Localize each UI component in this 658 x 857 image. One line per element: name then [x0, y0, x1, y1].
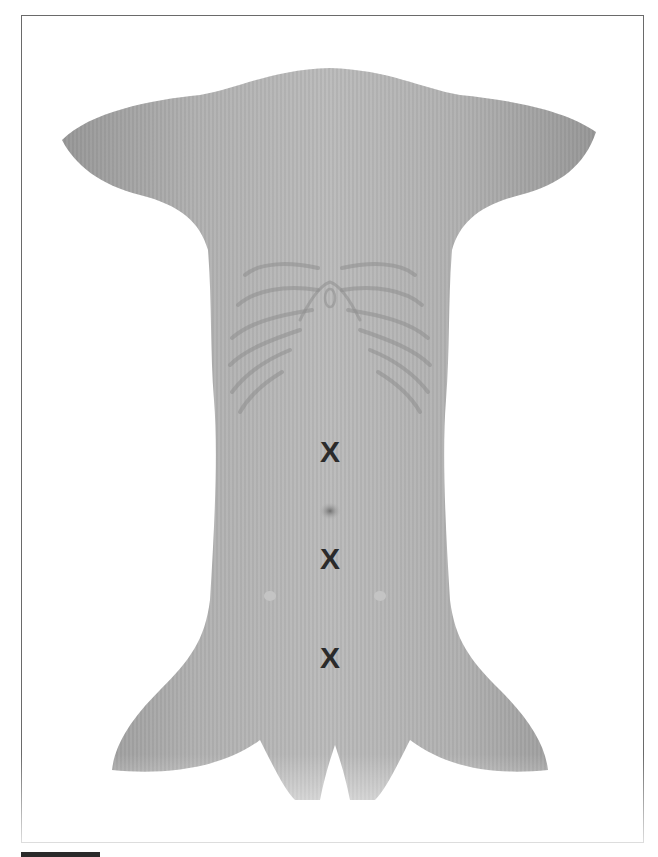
scale-bar: [21, 852, 100, 857]
left-hip-landmark: [264, 591, 276, 601]
x-mark-2: X: [320, 544, 340, 574]
x-mark-1: X: [320, 437, 340, 467]
torso-illustration: [0, 0, 658, 857]
right-hip-landmark: [374, 591, 386, 601]
x-mark-3: X: [320, 643, 340, 673]
torso-body: [62, 68, 596, 800]
navel: [319, 502, 341, 520]
